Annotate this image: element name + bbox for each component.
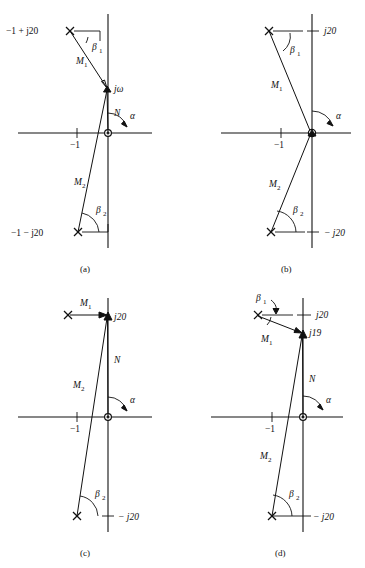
svg-text:2: 2	[277, 184, 281, 192]
svg-text:1: 1	[88, 303, 92, 311]
label-angle-alpha: α	[130, 395, 136, 405]
label-vector-n: N	[113, 355, 121, 365]
panel-b-diagram: j20 − j20 −1 M 1 M 2 α β 1 β 2 (b)	[183, 0, 365, 284]
label-angle-alpha: α	[336, 111, 342, 121]
label-angle-beta2: β 2	[94, 489, 106, 502]
angle-beta2-arc	[82, 213, 99, 232]
label-vector-m2: M 2	[268, 179, 281, 192]
label-test-point: j19	[307, 328, 321, 338]
label-real-tick: −1	[274, 140, 284, 150]
label-angle-beta2: β 2	[292, 205, 304, 218]
angle-beta2-arc	[80, 496, 98, 516]
label-vector-m2: M 2	[73, 177, 86, 190]
label-imag-lower: − j20	[313, 512, 334, 522]
figure-root: −1 + j20 −1 − j20 jω −1 M 1 M 2 N α β 1 …	[0, 0, 365, 568]
svg-text:1: 1	[263, 298, 267, 306]
label-angle-beta2: β 2	[288, 489, 300, 502]
pole-marker-upper	[254, 311, 262, 319]
svg-text:2: 2	[296, 494, 300, 502]
label-angle-beta2: β 2	[95, 205, 107, 218]
label-angle-beta1: β 1	[289, 45, 301, 58]
label-vector-m1: M 1	[79, 298, 92, 311]
test-point-marker	[104, 86, 112, 92]
panel-c-diagram: j20 − j20 −1 M 1 M 2 N α β 2 (c)	[0, 284, 182, 568]
panel-caption-a: (a)	[80, 264, 90, 274]
label-angle-alpha: α	[130, 111, 136, 121]
angle-beta1-arc	[86, 37, 88, 43]
label-vector-n: N	[113, 108, 121, 118]
svg-text:β: β	[255, 293, 261, 303]
label-vector-n: N	[308, 374, 316, 384]
label-real-tick: −1	[70, 424, 80, 434]
label-vector-m2: M 2	[259, 451, 272, 464]
vector-m1-line	[258, 316, 299, 332]
svg-text:β: β	[289, 45, 295, 55]
label-real-tick: −1	[70, 140, 80, 150]
svg-text:β: β	[292, 205, 298, 215]
label-imag-lower: − j20	[324, 228, 345, 238]
panel-a-diagram: −1 + j20 −1 − j20 jω −1 M 1 M 2 N α β 1 …	[0, 0, 182, 284]
label-test-point: jω	[112, 84, 124, 94]
svg-text:β: β	[95, 205, 101, 215]
panel-caption-d: (d)	[275, 548, 286, 558]
label-real-tick: −1	[265, 424, 275, 434]
panel-caption-b: (b)	[281, 264, 292, 274]
label-vector-m1: M 1	[260, 334, 273, 347]
label-imag-upper: j20	[314, 310, 328, 320]
svg-text:1: 1	[84, 61, 88, 69]
label-angle-alpha: α	[326, 395, 332, 405]
svg-text:β: β	[288, 489, 294, 499]
label-pole-upper: −1 + j20	[6, 26, 39, 36]
label-pole-lower: −1 − j20	[11, 228, 44, 238]
label-angle-beta1: β 1	[255, 293, 267, 306]
svg-text:2: 2	[82, 182, 86, 190]
vector-n-line	[303, 336, 304, 417]
svg-text:2: 2	[103, 210, 107, 218]
label-vector-m2: M 2	[72, 380, 85, 393]
panel-d-diagram: j20 j19 − j20 −1 M 1 M 2 N α β 1 β 2 (d)	[183, 284, 365, 568]
svg-text:1: 1	[269, 339, 273, 347]
label-imag-lower: − j20	[118, 512, 139, 522]
label-imag-upper: j20	[322, 26, 336, 36]
angle-beta1-arc	[267, 317, 271, 325]
svg-text:2: 2	[268, 456, 272, 464]
svg-text:2: 2	[81, 385, 85, 393]
vector-m1-arrowhead	[294, 328, 302, 334]
angle-beta1-pointer-arrowhead	[273, 309, 279, 315]
svg-text:2: 2	[300, 210, 304, 218]
svg-text:β: β	[94, 489, 100, 499]
svg-text:1: 1	[279, 85, 283, 93]
panel-a: −1 + j20 −1 − j20 jω −1 M 1 M 2 N α β 1 …	[0, 0, 182, 284]
vector-n-line	[108, 318, 109, 417]
svg-text:β: β	[91, 42, 97, 52]
panel-b: j20 − j20 −1 M 1 M 2 α β 1 β 2 (b)	[183, 0, 365, 284]
label-angle-beta1: β 1	[91, 42, 103, 55]
panel-caption-c: (c)	[80, 548, 90, 558]
svg-text:1: 1	[297, 50, 301, 58]
vector-m2-line	[272, 336, 302, 516]
svg-text:2: 2	[102, 494, 106, 502]
label-vector-m1: M 1	[270, 80, 283, 93]
svg-text:1: 1	[99, 47, 103, 55]
panel-d: j20 j19 − j20 −1 M 1 M 2 N α β 1 β 2 (d)	[183, 284, 365, 568]
label-imag-upper: j20	[112, 312, 126, 322]
label-vector-m1: M 1	[75, 56, 88, 69]
panel-c: j20 − j20 −1 M 1 M 2 N α β 2 (c)	[0, 284, 182, 568]
